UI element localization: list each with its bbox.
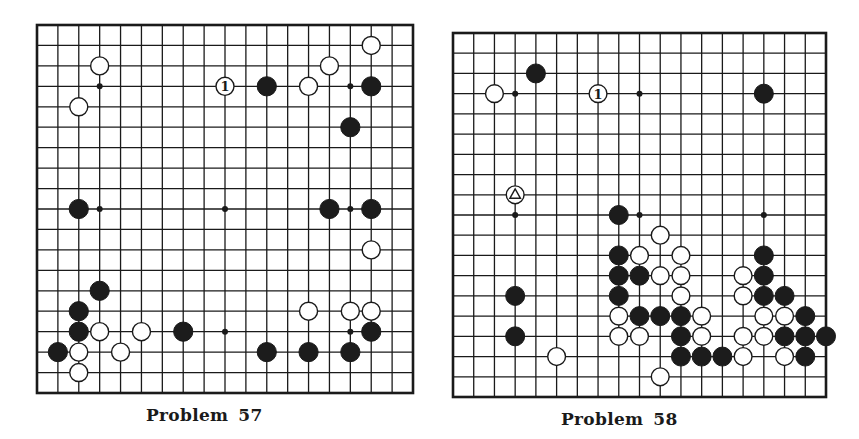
white-stone <box>734 287 752 305</box>
black-stone <box>775 286 794 305</box>
white-stone <box>651 368 669 386</box>
black-stone <box>651 307 670 326</box>
black-stone <box>506 286 525 305</box>
black-stone <box>754 266 773 285</box>
white-stone <box>610 307 628 325</box>
white-stone <box>631 247 649 265</box>
star-point <box>761 212 767 218</box>
white-stone <box>631 327 649 345</box>
white-stone <box>734 267 752 285</box>
board-problem-58: 1 <box>0 0 859 410</box>
white-stone <box>755 307 773 325</box>
white-stone <box>651 267 669 285</box>
white-stone <box>672 267 690 285</box>
black-stone <box>671 307 690 326</box>
white-stone <box>693 327 711 345</box>
white-stone <box>776 307 794 325</box>
black-stone <box>609 205 628 224</box>
caption-problem-58: Problem58 <box>561 409 678 429</box>
black-stone <box>609 266 628 285</box>
black-stone <box>796 307 815 326</box>
caption-number: 58 <box>653 409 677 429</box>
star-point <box>512 91 518 97</box>
white-stone <box>776 348 794 366</box>
black-stone <box>796 347 815 366</box>
caption-word: Problem <box>561 409 643 429</box>
black-stone <box>630 266 649 285</box>
black-stone <box>754 246 773 265</box>
white-stone <box>693 307 711 325</box>
black-stone <box>671 347 690 366</box>
star-point <box>637 91 643 97</box>
white-stone <box>755 327 773 345</box>
black-stone <box>713 347 732 366</box>
black-stone <box>526 64 545 83</box>
white-stone <box>506 186 524 204</box>
black-stone <box>630 307 649 326</box>
star-point <box>637 212 643 218</box>
white-stone <box>651 226 669 244</box>
white-stone <box>610 327 628 345</box>
white-stone <box>734 327 752 345</box>
black-stone <box>692 347 711 366</box>
white-stone: 1 <box>589 85 607 103</box>
black-stone <box>816 327 835 346</box>
black-stone <box>754 84 773 103</box>
go-board-diagram-58: 1 <box>0 0 859 410</box>
white-stone <box>486 85 504 103</box>
move-number-label: 1 <box>594 87 603 102</box>
white-stone <box>672 287 690 305</box>
black-stone <box>609 246 628 265</box>
black-stone <box>775 327 794 346</box>
white-stone <box>548 348 566 366</box>
black-stone <box>609 286 628 305</box>
white-stone <box>734 348 752 366</box>
black-stone <box>671 327 690 346</box>
black-stone <box>754 286 773 305</box>
white-stone <box>672 247 690 265</box>
black-stone <box>506 327 525 346</box>
star-point <box>512 212 518 218</box>
black-stone <box>796 327 815 346</box>
